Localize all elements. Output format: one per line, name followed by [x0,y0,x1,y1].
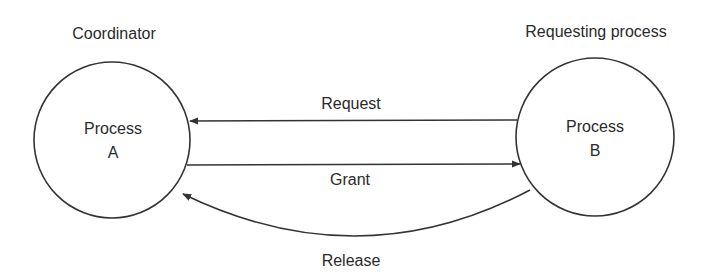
request-arrow [190,120,517,121]
process-a-line2: A [84,141,142,165]
process-b-line1: Process [566,115,624,139]
release-label: Release [322,253,381,269]
process-b-line2: B [566,139,624,163]
requesting-process-label: Requesting process [525,24,666,40]
request-label: Request [321,96,381,112]
process-a-text: Process A [84,117,142,165]
grant-arrow [187,164,520,165]
process-a-line1: Process [84,117,142,141]
release-arrow [183,190,530,236]
coordinator-label: Coordinator [72,26,156,42]
grant-label: Grant [330,172,370,188]
process-b-text: Process B [566,115,624,163]
